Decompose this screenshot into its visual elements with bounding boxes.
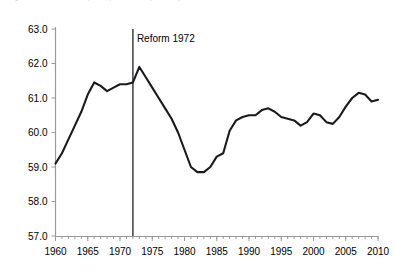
x-tick-label: 1960: [44, 246, 67, 257]
x-tick-label: 1990: [238, 246, 261, 257]
x-tick-label: 1965: [77, 246, 100, 257]
y-tick-label: 61.0: [28, 93, 48, 104]
reform-annotation-label: Reform 1972: [137, 33, 195, 44]
y-tick-label: 59.0: [28, 162, 48, 173]
y-tick-label: 57.0: [28, 231, 48, 242]
x-tick-label: 2005: [335, 246, 358, 257]
x-tick-label: 1995: [270, 246, 293, 257]
y-tick-labels: 57.058.059.060.061.062.063.0: [28, 24, 48, 242]
y-tick-label: 60.0: [28, 127, 48, 138]
x-tick-label: 1980: [173, 246, 196, 257]
y-axis-group: 57.058.059.060.061.062.063.0: [28, 24, 55, 242]
x-tick-label: 2010: [367, 246, 390, 257]
chart-svg: 57.058.059.060.061.062.063.0 19601965197…: [0, 0, 395, 272]
x-tick-label: 1975: [141, 246, 164, 257]
x-tick-label: 1970: [109, 246, 132, 257]
data-series-line: [56, 67, 379, 172]
y-tick-label: 63.0: [28, 24, 48, 35]
chart-canvas: 57.058.059.060.061.062.063.0 19601965197…: [0, 0, 395, 272]
x-tick-label: 2000: [302, 246, 325, 257]
x-axis-group: 1960196519701975198019851990199520002005…: [44, 236, 389, 257]
x-tick-labels: 1960196519701975198019851990199520002005…: [44, 246, 389, 257]
x-tick-label: 1985: [206, 246, 229, 257]
y-tick-label: 62.0: [28, 58, 48, 69]
y-tick-label: 58.0: [28, 196, 48, 207]
chart-root: Figure 1. Labour force participation rat…: [0, 0, 395, 272]
